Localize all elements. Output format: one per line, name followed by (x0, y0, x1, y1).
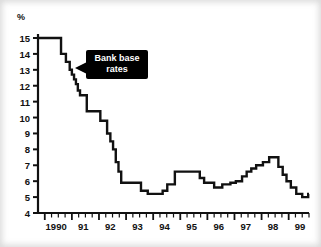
annotation-line-1: Bank base (94, 53, 139, 63)
annotation-line-2: rates (106, 64, 128, 74)
chart-figure: % 456789101112131415 1990919293949596979… (0, 0, 321, 247)
annotation-callout: Bank base rates (86, 50, 148, 79)
chart-plot-area (0, 0, 321, 247)
